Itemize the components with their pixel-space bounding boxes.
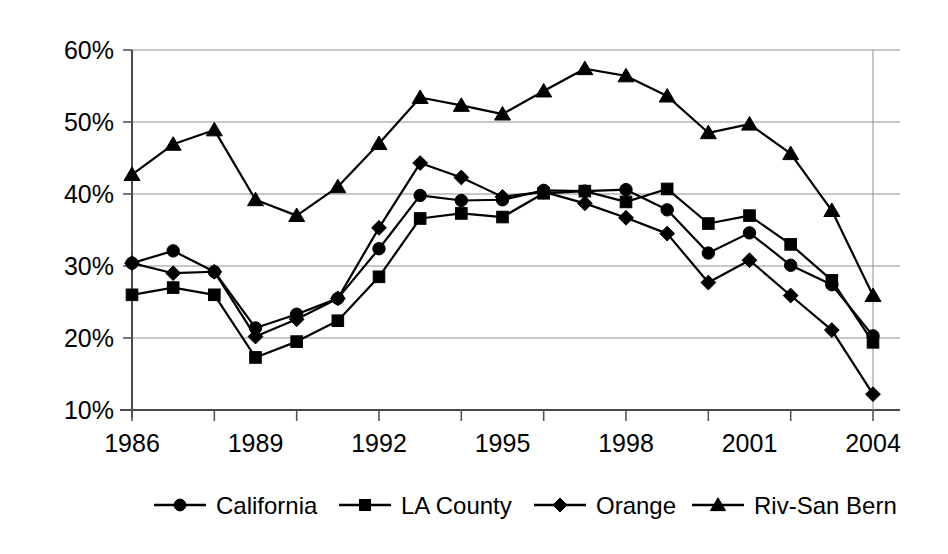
marker-square	[744, 210, 756, 222]
line-chart: 60%50%40%30%20%10% 198619891992199519982…	[0, 0, 948, 554]
legend-label: Riv-San Bern	[754, 492, 897, 519]
data-point	[620, 196, 632, 208]
x-tick-label-1995: 1995	[475, 429, 531, 457]
data-point	[743, 227, 755, 239]
marker-square	[826, 275, 838, 287]
chart-background	[0, 0, 948, 554]
marker-circle	[661, 204, 673, 216]
marker-square	[867, 337, 879, 349]
marker-square	[359, 499, 370, 510]
data-point	[414, 213, 426, 225]
data-point	[497, 211, 509, 223]
marker-square	[250, 352, 262, 364]
legend-label: Orange	[596, 492, 676, 519]
y-tick-label-30: 30%	[64, 252, 114, 280]
x-tick-label-1989: 1989	[228, 429, 284, 457]
marker-square	[209, 289, 221, 301]
marker-square	[497, 211, 509, 223]
data-point	[867, 337, 879, 349]
marker-circle	[414, 189, 426, 201]
data-point	[332, 315, 344, 327]
marker-circle	[784, 259, 796, 271]
data-point	[785, 239, 797, 251]
data-point	[661, 204, 673, 216]
x-tick-label-2004: 2004	[845, 429, 901, 457]
marker-square	[703, 218, 715, 230]
marker-square	[620, 196, 632, 208]
y-tick-label-40: 40%	[64, 180, 114, 208]
marker-circle	[620, 183, 632, 195]
marker-circle	[174, 499, 186, 511]
marker-square	[785, 239, 797, 251]
data-point	[167, 245, 179, 257]
data-point	[167, 282, 179, 294]
y-tick-label-20: 20%	[64, 324, 114, 352]
data-point	[703, 218, 715, 230]
data-point	[373, 243, 385, 255]
data-point	[250, 352, 262, 364]
marker-square	[291, 336, 303, 348]
marker-square	[456, 208, 468, 220]
y-tick-label-60: 60%	[64, 36, 114, 64]
x-tick-label-1992: 1992	[351, 429, 407, 457]
data-point	[784, 259, 796, 271]
data-point	[579, 185, 591, 197]
x-tick-label-2001: 2001	[722, 429, 778, 457]
marker-square	[332, 315, 344, 327]
marker-circle	[743, 227, 755, 239]
data-point	[620, 183, 632, 195]
chart-container: 60%50%40%30%20%10% 198619891992199519982…	[0, 0, 948, 554]
marker-square	[579, 185, 591, 197]
marker-circle	[455, 194, 467, 206]
marker-circle	[702, 247, 714, 259]
data-point	[826, 275, 838, 287]
marker-square	[126, 289, 138, 301]
data-point	[455, 194, 467, 206]
y-tick-label-50: 50%	[64, 108, 114, 136]
x-tick-label-1986: 1986	[104, 429, 160, 457]
data-point	[373, 271, 385, 283]
data-point	[702, 247, 714, 259]
y-tick-label-10: 10%	[64, 396, 114, 424]
data-point	[744, 210, 756, 222]
marker-circle	[373, 243, 385, 255]
data-point	[661, 183, 673, 195]
data-point	[291, 336, 303, 348]
marker-square	[414, 213, 426, 225]
marker-circle	[167, 245, 179, 257]
data-point	[414, 189, 426, 201]
x-tick-label-1998: 1998	[598, 429, 654, 457]
marker-square	[167, 282, 179, 294]
legend-label: California	[216, 492, 318, 519]
marker-square	[661, 183, 673, 195]
data-point	[456, 208, 468, 220]
marker-square	[373, 271, 385, 283]
data-point	[126, 289, 138, 301]
data-point	[209, 289, 221, 301]
legend-label: LA County	[401, 492, 512, 519]
